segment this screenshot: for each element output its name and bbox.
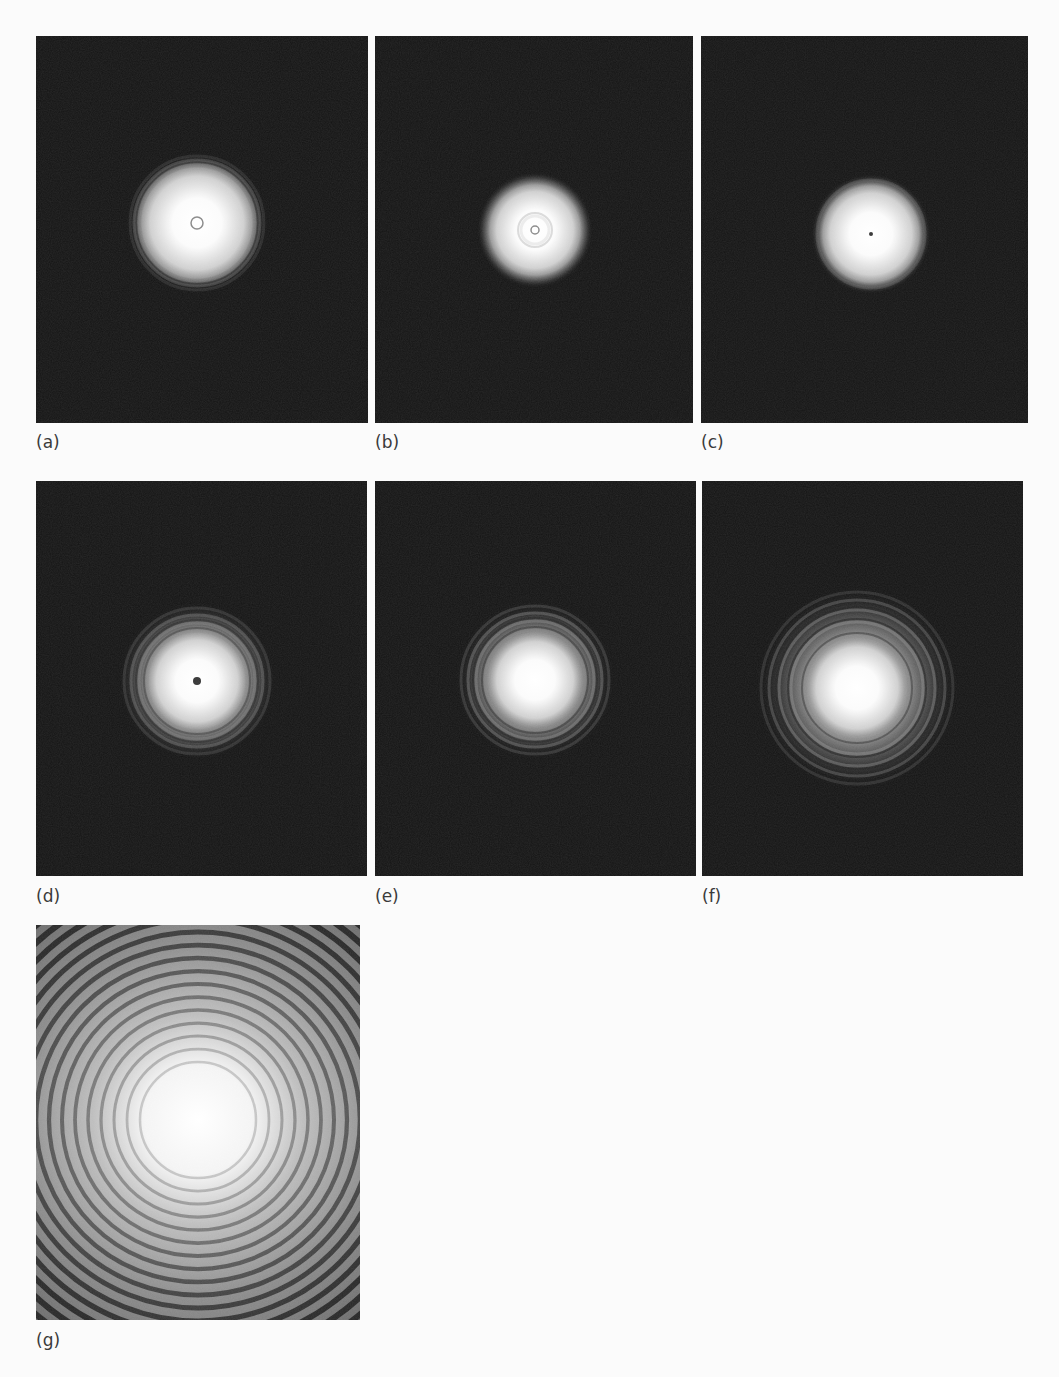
diffraction-pattern-g <box>36 925 360 1320</box>
image-panel-e <box>375 481 696 876</box>
image-panel-f <box>702 481 1023 876</box>
panel-label-g: (g) <box>36 1330 60 1350</box>
image-panel-g <box>36 925 360 1320</box>
diffraction-pattern-b <box>375 36 693 423</box>
diffraction-pattern-f <box>702 481 1023 876</box>
image-panel-c <box>701 36 1028 423</box>
diffraction-pattern-c <box>701 36 1028 423</box>
panel-label-d: (d) <box>36 886 60 906</box>
panel-label-b: (b) <box>375 432 399 452</box>
diffraction-pattern-a <box>36 36 368 423</box>
panel-label-f: (f) <box>702 886 721 906</box>
panel-label-a: (a) <box>36 432 60 452</box>
image-panel-a <box>36 36 368 423</box>
panel-label-e: (e) <box>375 886 399 906</box>
panel-label-c: (c) <box>701 432 724 452</box>
diffraction-pattern-d <box>36 481 367 876</box>
image-panel-d <box>36 481 367 876</box>
diffraction-pattern-e <box>375 481 696 876</box>
image-panel-b <box>375 36 693 423</box>
